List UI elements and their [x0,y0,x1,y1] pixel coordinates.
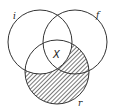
label-r: r [78,98,83,108]
venn-diagram: i f r X [0,0,116,109]
label-f: f [95,10,101,20]
label-i: i [13,11,16,21]
marker-x: X [52,49,61,60]
